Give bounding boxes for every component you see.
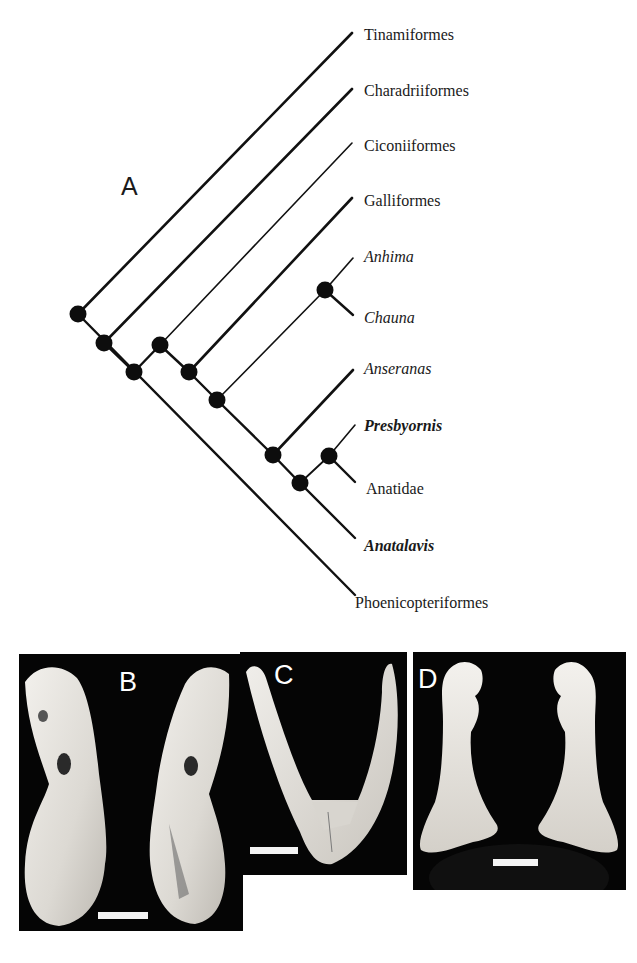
branch-anhimidae-stem bbox=[217, 290, 325, 400]
node-5 bbox=[181, 364, 198, 381]
branch-tinamiformes bbox=[78, 33, 352, 314]
foramen bbox=[57, 753, 71, 775]
branch-internal-6-7 bbox=[217, 400, 273, 455]
foramen bbox=[184, 756, 198, 776]
bone-specimen-c bbox=[240, 652, 407, 875]
bone-pit bbox=[38, 710, 48, 722]
bone-left-view bbox=[25, 667, 107, 926]
taxon-label: Tinamiformes bbox=[364, 26, 454, 43]
photo-panel-b: B bbox=[19, 654, 243, 931]
taxon-label: Phoenicopteriformes bbox=[355, 594, 488, 612]
panel-label-a: A bbox=[121, 172, 138, 200]
scale-bar-d bbox=[493, 859, 538, 866]
node-7 bbox=[265, 447, 282, 464]
branch-anatalavis bbox=[300, 483, 355, 538]
panel-label-c: C bbox=[274, 662, 294, 689]
scale-bar-b bbox=[98, 912, 148, 919]
node-3 bbox=[126, 364, 143, 381]
node-anhimidae bbox=[317, 282, 334, 299]
branches bbox=[78, 33, 355, 595]
scale-bar-c bbox=[250, 847, 298, 854]
branch-charadriiformes bbox=[104, 89, 352, 343]
node-8 bbox=[292, 475, 309, 492]
taxon-label: Anseranas bbox=[363, 360, 432, 377]
cladogram: A bbox=[0, 0, 637, 640]
bone-right-view bbox=[150, 667, 230, 924]
taxon-label: Presbyornis bbox=[363, 417, 442, 435]
taxon-label: Charadriiformes bbox=[364, 82, 469, 99]
branch-phoenicopteriformes bbox=[78, 314, 355, 595]
furcula-bone bbox=[246, 664, 398, 864]
node-root bbox=[70, 306, 87, 323]
panel-label-b: B bbox=[119, 669, 137, 696]
node-2 bbox=[96, 335, 113, 352]
taxon-label: Anatalavis bbox=[363, 537, 434, 554]
taxon-label: Chauna bbox=[364, 309, 415, 326]
taxon-label: Anatidae bbox=[366, 480, 424, 497]
photo-panel-d: D bbox=[413, 652, 626, 890]
node-9 bbox=[321, 448, 338, 465]
node-4 bbox=[152, 337, 169, 354]
specimen-shadow bbox=[429, 844, 609, 890]
branch-ciconiiformes bbox=[160, 143, 352, 345]
bone-specimen-d bbox=[413, 652, 626, 890]
taxon-label: Anhima bbox=[363, 248, 414, 265]
bone-right-view bbox=[538, 662, 618, 853]
photo-panel-c: C bbox=[240, 652, 407, 875]
panel-label-d: D bbox=[418, 666, 438, 693]
taxon-label: Ciconiiformes bbox=[364, 137, 456, 154]
node-6 bbox=[209, 392, 226, 409]
taxon-label: Galliformes bbox=[364, 192, 440, 209]
